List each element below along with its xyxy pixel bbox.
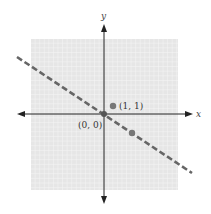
y-axis-label: y <box>100 11 107 21</box>
point-label-1-1: (1, 1) <box>119 101 143 111</box>
x-axis-label: x <box>196 109 201 119</box>
point-label-origin: (0, 0) <box>78 120 102 130</box>
y-axis-down-arrow-icon <box>101 196 107 204</box>
point-1-1 <box>110 103 116 109</box>
coordinate-plane: x y (1, 1) (0, 0) <box>0 0 211 214</box>
x-axis-left-arrow-icon <box>17 111 25 117</box>
point-on-line <box>129 130 135 136</box>
x-axis-right-arrow-icon <box>185 111 193 117</box>
y-axis-up-arrow-icon <box>101 24 107 32</box>
point-origin <box>101 111 107 117</box>
